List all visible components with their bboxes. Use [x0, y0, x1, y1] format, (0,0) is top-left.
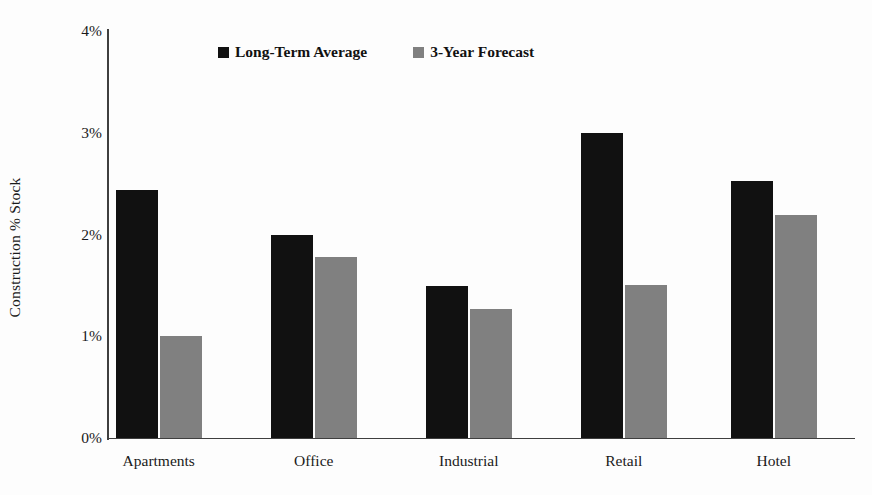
bar[interactable] [731, 181, 773, 438]
bar[interactable] [775, 215, 817, 438]
legend-label: Long-Term Average [235, 43, 367, 61]
bar[interactable] [315, 257, 357, 438]
y-axis-tick-label: 1% [58, 328, 102, 344]
bar-group [116, 31, 202, 438]
bar-chart: Construction % Stock 4%3%2%1%0% Long-Ter… [0, 0, 872, 495]
y-axis-tick-label: 0% [58, 430, 102, 446]
y-axis-title: Construction % Stock [0, 0, 30, 495]
bar[interactable] [581, 133, 623, 438]
legend-label: 3-Year Forecast [430, 43, 534, 61]
x-axis-category-label: Office [244, 452, 384, 470]
y-axis-tick-label: 3% [58, 125, 102, 141]
y-axis-tick-label: 4% [58, 23, 102, 39]
bar-group [731, 31, 817, 438]
chart-legend: Long-Term Average3-Year Forecast [218, 43, 534, 61]
x-axis-category-label: Hotel [704, 452, 844, 470]
legend-swatch-icon [218, 47, 229, 58]
bar[interactable] [160, 336, 202, 438]
legend-swatch-icon [413, 47, 424, 58]
bar[interactable] [271, 235, 313, 439]
y-axis-tick-label: 2% [58, 227, 102, 243]
x-axis-category-label: Industrial [399, 452, 539, 470]
bar[interactable] [426, 286, 468, 438]
bar[interactable] [470, 309, 512, 438]
x-axis-category-label: Retail [554, 452, 694, 470]
y-axis-tick-labels: 4%3%2%1%0% [30, 0, 102, 495]
plot-area [107, 31, 855, 438]
bar-group [271, 31, 357, 438]
bar[interactable] [116, 190, 158, 438]
legend-item[interactable]: 3-Year Forecast [413, 43, 534, 61]
bar[interactable] [625, 285, 667, 438]
legend-item[interactable]: Long-Term Average [218, 43, 367, 61]
bar-group [581, 31, 667, 438]
x-axis-category-label: Apartments [89, 452, 229, 470]
bar-group [426, 31, 512, 438]
